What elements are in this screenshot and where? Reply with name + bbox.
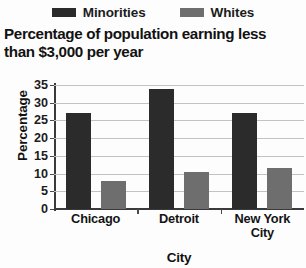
y-axis-tick-label: 10 [34, 167, 48, 181]
chart-title: Percentage of population earning less th… [4, 25, 304, 60]
y-axis-tick-label: 30 [34, 96, 48, 110]
y-axis-tick-label: 35 [34, 78, 48, 92]
x-axis-category-label-line: Detroit [137, 212, 220, 226]
bar-chicago-minorities [66, 113, 91, 209]
bar-chart-figure: Minorities Whites Percentage of populati… [0, 0, 306, 268]
x-axis-category-label-line: Chicago [54, 212, 137, 226]
y-axis-tick-label: 5 [41, 184, 48, 198]
y-axis-tick-label: 15 [34, 149, 48, 163]
gridline [54, 103, 304, 104]
legend-entry-minorities: Minorities [52, 5, 146, 20]
y-axis-tick-mark [50, 174, 54, 175]
gridline [54, 120, 304, 121]
x-axis-category-label-line: City [221, 226, 304, 240]
bar-detroit-whites [184, 172, 209, 209]
y-axis-tick-mark [50, 156, 54, 157]
legend-swatch-minorities-icon [52, 8, 76, 17]
y-axis-tick-label: 25 [34, 113, 48, 127]
chart-title-line-1: Percentage of population earning less [4, 25, 304, 43]
legend-label-whites: Whites [211, 5, 255, 20]
bar-new-york-city-whites [267, 168, 292, 209]
y-axis-title: Percentage [15, 80, 30, 172]
y-axis-tick-mark [50, 103, 54, 104]
y-axis-tick-label: 0 [41, 202, 48, 216]
x-axis-category-label-line: New York [221, 212, 304, 226]
bar-detroit-minorities [149, 89, 174, 209]
y-axis-tick-mark [50, 85, 54, 86]
x-axis-title: City [54, 250, 304, 265]
x-axis-category-label: Detroit [137, 212, 220, 226]
x-axis-category-label: Chicago [54, 212, 137, 226]
y-axis-tick-mark [50, 209, 54, 210]
legend-label-minorities: Minorities [83, 5, 146, 20]
gridline [54, 85, 304, 86]
legend-entry-whites: Whites [180, 5, 255, 20]
gridline [54, 156, 304, 157]
y-axis-tick-mark [50, 191, 54, 192]
y-axis-tick-label: 20 [34, 131, 48, 145]
chart-legend: Minorities Whites [0, 3, 306, 21]
y-axis-tick-mark [50, 138, 54, 139]
bar-new-york-city-minorities [232, 113, 257, 209]
y-axis-tick-mark [50, 120, 54, 121]
x-axis-category-label: New YorkCity [221, 212, 304, 240]
gridline [54, 138, 304, 139]
chart-title-line-2: than $3,000 per year [4, 43, 304, 61]
bar-chicago-whites [101, 181, 126, 209]
legend-swatch-whites-icon [180, 8, 204, 17]
plot-area: 35302520151050 [54, 85, 304, 209]
